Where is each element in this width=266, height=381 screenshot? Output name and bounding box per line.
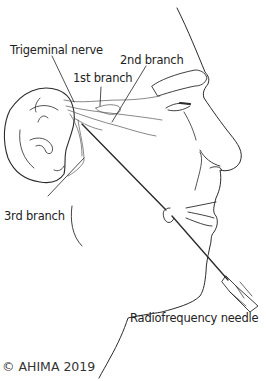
ear [4, 88, 74, 182]
brow [152, 70, 207, 96]
label-first-branch: 1st branch [73, 71, 132, 85]
radiofrequency-needle [82, 123, 258, 312]
label-third-branch: 3rd branch [4, 209, 65, 223]
label-trigeminal-nerve: Trigeminal nerve [10, 43, 103, 57]
lips [186, 202, 216, 226]
label-radiofrequency-needle: Radiofrequency needle [130, 311, 258, 325]
label-second-branch: 2nd branch [120, 53, 184, 67]
copyright-notice: © AHIMA 2019 [2, 359, 95, 374]
